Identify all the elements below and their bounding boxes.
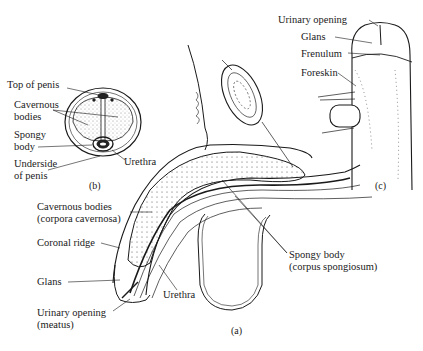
- label-urethra-b: Urethra: [124, 156, 156, 168]
- external-view-c: [318, 20, 412, 190]
- label-glans-c: Glans: [301, 31, 326, 43]
- label-urinary-opening-a-2: (meatus): [37, 319, 74, 331]
- label-spongy-body-a-1: Spongy body: [289, 249, 345, 261]
- label-top-of-penis: Top of penis: [7, 79, 59, 91]
- label-underside-1: Underside: [14, 158, 57, 170]
- label-coronal-ridge: Coronal ridge: [37, 237, 95, 249]
- anatomy-figure: Top of penis Cavernous bodies Spongy bod…: [0, 0, 423, 351]
- label-urethra-a: Urethra: [163, 289, 195, 301]
- caption-a: (a): [231, 325, 242, 336]
- caption-c: (c): [375, 180, 386, 191]
- label-cavernous-bodies-a-2: (corpora cavernosa): [37, 213, 121, 225]
- label-spongy-body-a-2: (corpus spongiosum): [289, 261, 377, 273]
- label-glans-a: Glans: [37, 276, 62, 288]
- label-cavernous-bodies-a-1: Cavernous bodies: [37, 201, 112, 213]
- label-spongy-body-b-1: Spongy: [14, 129, 46, 141]
- label-urinary-opening-a-1: Urinary opening: [37, 307, 106, 319]
- label-cavernous-bodies-b-1: Cavernous: [14, 99, 59, 111]
- label-frenulum: Frenulum: [301, 48, 342, 60]
- label-spongy-body-b-2: body: [14, 141, 35, 153]
- caption-b: (b): [89, 180, 101, 191]
- label-urinary-opening-c: Urinary opening: [278, 14, 347, 26]
- label-foreskin: Foreskin: [301, 67, 338, 79]
- label-cavernous-bodies-b-2: bodies: [14, 111, 41, 123]
- label-underside-2: of penis: [14, 170, 48, 182]
- illustration: [0, 0, 423, 351]
